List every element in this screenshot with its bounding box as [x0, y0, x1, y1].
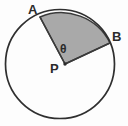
- point-label-a: A: [28, 3, 37, 16]
- circle-sector-drawing: [0, 0, 128, 126]
- shaded-sector: [40, 13, 110, 64]
- geometry-figure: A B P θ: [0, 0, 128, 126]
- angle-label-theta: θ: [60, 43, 67, 55]
- center-label-p: P: [50, 62, 59, 75]
- point-label-b: B: [112, 30, 121, 43]
- center-point-dot: [63, 62, 66, 65]
